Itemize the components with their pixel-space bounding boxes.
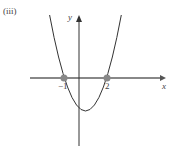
root-label-neg1: −1	[58, 81, 68, 91]
x-axis-label: x	[162, 81, 166, 91]
parabola-curve	[50, 15, 122, 111]
graph	[0, 0, 169, 147]
root-label-2: 2	[105, 81, 110, 91]
y-axis-arrow-icon	[76, 15, 82, 22]
y-axis-label: y	[68, 12, 72, 22]
